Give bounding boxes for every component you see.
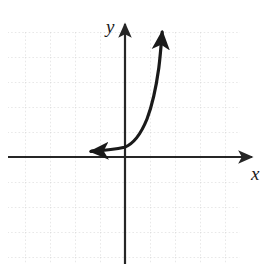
coordinate-plane-svg: y x: [0, 0, 271, 264]
graph-figure: y x: [0, 0, 271, 264]
y-axis-label: y: [104, 16, 115, 37]
x-axis-label: x: [250, 163, 260, 184]
